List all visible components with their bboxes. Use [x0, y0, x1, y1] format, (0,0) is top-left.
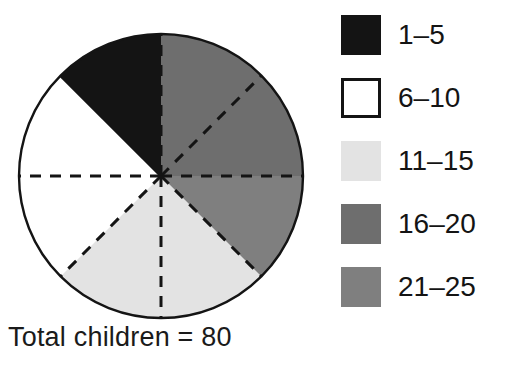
chart-caption: Total children = 80 — [8, 322, 328, 352]
legend-label: 16–20 — [398, 209, 476, 239]
legend-label: 21–25 — [398, 272, 476, 302]
legend-item[interactable]: 21–25 — [341, 266, 476, 308]
legend-item[interactable]: 11–15 — [341, 140, 474, 182]
legend-swatch — [341, 267, 381, 307]
pie-chart-figure: Total children = 80 1–56–1011–1516–2021–… — [0, 0, 505, 373]
pie-svg — [0, 0, 320, 330]
legend-label: 11–15 — [398, 146, 474, 176]
legend-swatch — [341, 15, 381, 55]
pie-chart-graphic — [0, 0, 320, 330]
legend-swatch — [341, 141, 381, 181]
legend-label: 6–10 — [398, 83, 460, 113]
chart-legend: 1–56–1011–1516–2021–25 — [341, 14, 505, 324]
legend-swatch — [341, 78, 381, 118]
legend-item[interactable]: 6–10 — [341, 77, 460, 119]
legend-item[interactable]: 16–20 — [341, 203, 476, 245]
legend-item[interactable]: 1–5 — [341, 14, 445, 56]
legend-swatch — [341, 204, 381, 244]
legend-label: 1–5 — [398, 20, 445, 50]
